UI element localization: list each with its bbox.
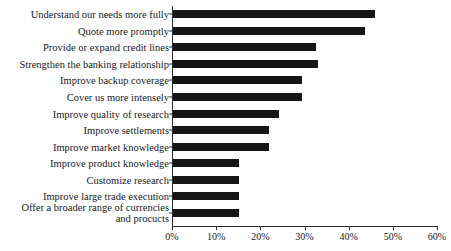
x-axis-tick	[393, 226, 394, 230]
bar-row: Improve settlements	[0, 122, 451, 139]
bar	[173, 176, 239, 184]
bar-row: Improve quality of research	[0, 105, 451, 122]
bar	[173, 60, 318, 68]
bar-row: Understand our needs more fully	[0, 6, 451, 23]
bar-row: Improve market knowledge	[0, 138, 451, 155]
bar	[173, 209, 239, 217]
bar-row: Offer a broader range of currencies and …	[0, 205, 451, 222]
bar	[173, 43, 316, 51]
y-axis-tick	[169, 63, 172, 64]
bar-category-label: Improve quality of research	[53, 108, 169, 119]
x-axis-tick	[437, 226, 438, 230]
y-axis-tick	[169, 14, 172, 15]
y-axis-tick	[169, 80, 172, 81]
y-axis-tick	[169, 196, 172, 197]
y-axis-tick	[169, 163, 172, 164]
x-axis-tick	[305, 226, 306, 230]
x-axis-tick-label: 0%	[165, 231, 178, 242]
bar	[173, 27, 365, 35]
bar-row: Improve product knowledge	[0, 155, 451, 172]
x-axis-tick-label: 40%	[339, 231, 357, 242]
bar-row: Improve backup coverage	[0, 72, 451, 89]
x-axis-tick-label: 20%	[251, 231, 269, 242]
bar-row: Strengthen the banking relationship	[0, 56, 451, 73]
y-axis-tick	[169, 30, 172, 31]
x-axis-tick-label: 30%	[295, 231, 313, 242]
x-axis-tick-label: 50%	[384, 231, 402, 242]
y-axis-tick	[169, 146, 172, 147]
y-axis-tick	[169, 130, 172, 131]
y-axis-tick	[169, 113, 172, 114]
bar	[173, 192, 239, 200]
x-axis-tick	[349, 226, 350, 230]
y-axis-tick	[169, 179, 172, 180]
x-axis-tick-label: 60%	[428, 231, 446, 242]
bar-category-label: Offer a broader range of currencies and …	[9, 201, 169, 224]
bar	[173, 126, 269, 134]
bar-category-label: Improve settlements	[84, 125, 169, 136]
bar	[173, 93, 302, 101]
bar	[173, 110, 279, 118]
bar-row: Provide or expand credit lines	[0, 39, 451, 56]
x-axis-tick	[260, 226, 261, 230]
bar-category-label: Strengthen the banking relationship	[19, 58, 169, 69]
bar	[173, 159, 239, 167]
bar	[173, 76, 302, 84]
bar-row: Customize research	[0, 172, 451, 189]
y-axis-tick	[169, 47, 172, 48]
bar-category-label: Improve backup coverage	[60, 75, 169, 86]
x-axis-tick	[172, 226, 173, 230]
bar-category-label: Provide or expand credit lines	[43, 42, 169, 53]
bar-chart: Understand our needs more fullyQuote mor…	[0, 0, 451, 251]
bar-category-label: Understand our needs more fully	[31, 9, 169, 20]
bar-category-label: Customize research	[86, 174, 169, 185]
y-axis-tick	[169, 97, 172, 98]
bar-category-label: Improve large trade execution	[43, 191, 169, 202]
bar-category-label: Quote more promptly	[78, 25, 169, 36]
x-axis-tick	[216, 226, 217, 230]
bar-row: Quote more promptly	[0, 23, 451, 40]
bar	[173, 10, 375, 18]
x-axis-tick-label: 10%	[207, 231, 225, 242]
y-axis-tick	[169, 212, 172, 213]
bar-row: Cover us more intensely	[0, 89, 451, 106]
bar	[173, 143, 269, 151]
plot-area: Understand our needs more fullyQuote mor…	[0, 0, 451, 251]
bar-category-label: Cover us more intensely	[67, 92, 169, 103]
bar-category-label: Improve market knowledge	[53, 141, 169, 152]
bar-category-label: Improve product knowledge	[50, 158, 169, 169]
